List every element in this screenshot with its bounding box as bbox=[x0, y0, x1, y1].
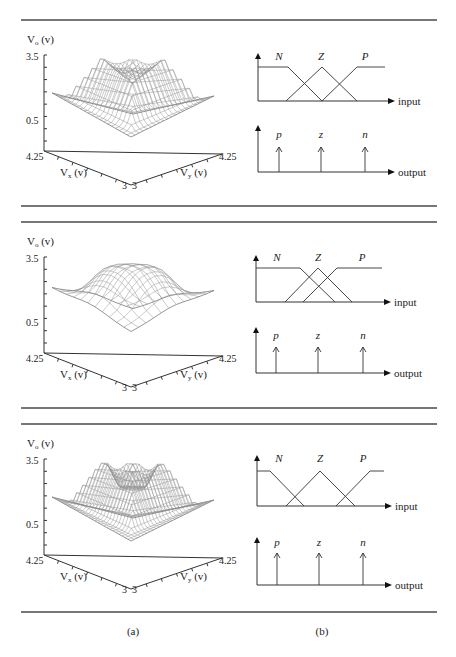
y-tick-near-label: 3 bbox=[132, 382, 137, 393]
input-membership: inputNZP bbox=[254, 452, 418, 512]
mf-label-Z: Z bbox=[318, 50, 325, 62]
y-tick bbox=[146, 382, 147, 385]
mf-Z bbox=[285, 268, 352, 302]
caption-b: (b) bbox=[316, 625, 329, 638]
z-axis-label: Vo (v) bbox=[27, 33, 54, 47]
x-tick bbox=[72, 364, 73, 367]
x-tick-near-label: 3 bbox=[122, 584, 127, 595]
x-tick-far-label: 4.25 bbox=[26, 353, 44, 364]
output-axis-label: output bbox=[394, 367, 422, 379]
y-tick bbox=[161, 579, 162, 582]
y-tick bbox=[161, 377, 162, 380]
surface-plot-1: Vo (v)3.50.54.25334.25Vx (v)Vy (v) bbox=[26, 33, 237, 191]
panel-2: Vo (v)3.50.54.25334.25Vx (v)Vy (v)inputN… bbox=[26, 235, 422, 393]
z-tick-bottom-label: 0.5 bbox=[26, 115, 39, 126]
membership-diagram-2: inputNZPoutputpzn bbox=[253, 251, 422, 379]
mf-label-Z: Z bbox=[315, 251, 322, 263]
mf-label-N: N bbox=[272, 251, 281, 263]
y-tick bbox=[177, 372, 178, 375]
arrow-right-icon bbox=[385, 582, 392, 588]
fuzzy-controller-figure: Vo (v)3.50.54.25334.25Vx (v)Vy (v)inputN… bbox=[0, 0, 456, 657]
x-tick bbox=[116, 179, 117, 182]
x-tick bbox=[101, 578, 102, 581]
mf-label-N: N bbox=[274, 452, 283, 464]
x-tick-near-label: 3 bbox=[122, 382, 127, 393]
figure-captions: (a) (b) bbox=[127, 625, 329, 638]
arrow-up-icon bbox=[253, 255, 259, 261]
panel-1: Vo (v)3.50.54.25334.25Vx (v)Vy (v)inputN… bbox=[26, 33, 426, 191]
arrow-up-icon bbox=[255, 125, 261, 131]
y-tick bbox=[146, 584, 147, 587]
z-axis-label: Vo (v) bbox=[27, 235, 54, 249]
y-axis-label: Vy (v) bbox=[180, 166, 207, 180]
x-axis-label: Vx (v) bbox=[60, 570, 87, 584]
floor-diagonal bbox=[44, 151, 222, 154]
y-tick bbox=[207, 563, 208, 566]
mf-P bbox=[336, 471, 384, 506]
output-singletons: outputpzn bbox=[255, 125, 426, 178]
floor-diagonal bbox=[44, 555, 222, 558]
x-tick bbox=[72, 566, 73, 569]
floor-diagonal bbox=[44, 353, 222, 356]
y-tick-far-label: 4.25 bbox=[219, 151, 237, 162]
arrow-up-icon bbox=[253, 327, 259, 333]
y-axis-label: Vy (v) bbox=[180, 570, 207, 584]
surface-mesh bbox=[52, 264, 214, 332]
surface-plot-3: Vo (v)3.50.54.25334.25Vx (v)Vy (v) bbox=[26, 437, 237, 595]
x-tick bbox=[116, 381, 117, 384]
output-axis-label: output bbox=[398, 166, 426, 178]
mf-P bbox=[303, 268, 382, 302]
input-axis-label: input bbox=[394, 296, 417, 308]
y-tick-near-label: 3 bbox=[132, 584, 137, 595]
singleton-label-n: n bbox=[362, 128, 368, 140]
horizontal-rules bbox=[21, 20, 437, 612]
y-tick-far-label: 4.25 bbox=[219, 555, 237, 566]
arrow-up-icon bbox=[254, 455, 260, 461]
x-tick bbox=[58, 157, 59, 160]
z-axis-label: Vo (v) bbox=[27, 437, 54, 451]
singleton-label-p: p bbox=[275, 128, 282, 140]
singleton-label-p: p bbox=[273, 536, 280, 548]
x-axis-label: Vx (v) bbox=[60, 368, 87, 382]
arrow-up-icon bbox=[254, 537, 260, 543]
singleton-label-n: n bbox=[360, 329, 366, 341]
output-singletons: outputpzn bbox=[254, 536, 423, 591]
surface-mesh bbox=[52, 59, 214, 137]
x-tick bbox=[58, 561, 59, 564]
y-tick bbox=[161, 175, 162, 178]
x-tick bbox=[101, 174, 102, 177]
input-axis-label: input bbox=[398, 95, 421, 107]
membership-diagram-3: inputNZPoutputpzn bbox=[254, 452, 423, 591]
input-membership: inputNZP bbox=[253, 251, 417, 308]
y-tick bbox=[177, 574, 178, 577]
x-tick bbox=[101, 376, 102, 379]
z-tick-top-label: 3.5 bbox=[26, 455, 39, 466]
singleton-label-n: n bbox=[360, 536, 366, 548]
mf-label-P: P bbox=[359, 452, 367, 464]
singleton-label-z: z bbox=[315, 329, 321, 341]
arrow-up-icon bbox=[255, 53, 261, 59]
z-tick-bottom-label: 0.5 bbox=[26, 317, 39, 328]
x-tick-far-label: 4.25 bbox=[26, 555, 44, 566]
x-tick bbox=[72, 162, 73, 165]
y-tick bbox=[177, 170, 178, 173]
mf-label-Z: Z bbox=[317, 452, 324, 464]
arrow-right-icon bbox=[384, 299, 391, 305]
output-axis-label: output bbox=[395, 579, 423, 591]
z-tick-top-label: 3.5 bbox=[26, 253, 39, 264]
panel-3: Vo (v)3.50.54.25334.25Vx (v)Vy (v)inputN… bbox=[26, 437, 423, 595]
x-tick bbox=[116, 583, 117, 586]
singleton-label-z: z bbox=[318, 128, 324, 140]
mf-N bbox=[258, 67, 322, 101]
y-tick bbox=[207, 361, 208, 364]
output-singletons: outputpzn bbox=[253, 327, 422, 379]
x-tick-near-label: 3 bbox=[122, 180, 127, 191]
arrow-right-icon bbox=[384, 370, 391, 376]
y-tick bbox=[207, 159, 208, 162]
caption-a: (a) bbox=[127, 625, 140, 638]
input-membership: inputNZP bbox=[255, 50, 421, 107]
x-tick-far-label: 4.25 bbox=[26, 151, 44, 162]
x-tick bbox=[58, 359, 59, 362]
mf-Z bbox=[286, 471, 355, 506]
surface-plot-2: Vo (v)3.50.54.25334.25Vx (v)Vy (v) bbox=[26, 235, 237, 393]
